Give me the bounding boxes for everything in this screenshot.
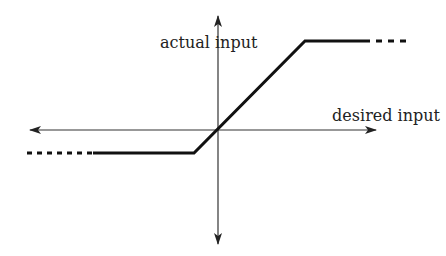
y-axis-label: actual input [160, 33, 258, 52]
x-axis-label: desired input [332, 106, 440, 125]
saturation-curve [93, 41, 370, 153]
diagram-svg: actual input desired input [0, 0, 446, 256]
saturation-diagram: actual input desired input [0, 0, 446, 256]
